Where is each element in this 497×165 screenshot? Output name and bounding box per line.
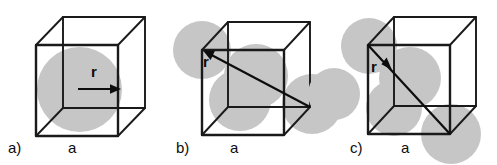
radius-label-a: r bbox=[91, 63, 97, 80]
radius-label-c: r bbox=[371, 58, 377, 75]
figure-canvas: r a) a r bbox=[0, 0, 497, 165]
panel-a: r a) a bbox=[8, 17, 145, 156]
cube-a-connector-top-right bbox=[118, 17, 145, 45]
cube-c-connector-top-right bbox=[450, 17, 476, 45]
edge-label-a: a bbox=[68, 139, 77, 156]
panel-c: r c) a bbox=[308, 17, 481, 164]
cube-a-connector-bottom-right bbox=[118, 108, 145, 136]
panel-label-a: a) bbox=[8, 139, 21, 156]
cube-a-connector-top-left bbox=[36, 17, 63, 45]
panel-label-b: b) bbox=[176, 139, 189, 156]
edge-label-c: a bbox=[401, 139, 410, 156]
panel-label-c: c) bbox=[350, 139, 363, 156]
sphere-c-face-left bbox=[308, 68, 360, 120]
edge-label-b: a bbox=[230, 139, 239, 156]
sphere-b-body-center-lower bbox=[209, 69, 271, 131]
sphere-packing-figure: r a) a r bbox=[0, 0, 497, 165]
radius-label-b: r bbox=[203, 53, 209, 70]
cube-b-connector-top-right bbox=[284, 22, 310, 50]
